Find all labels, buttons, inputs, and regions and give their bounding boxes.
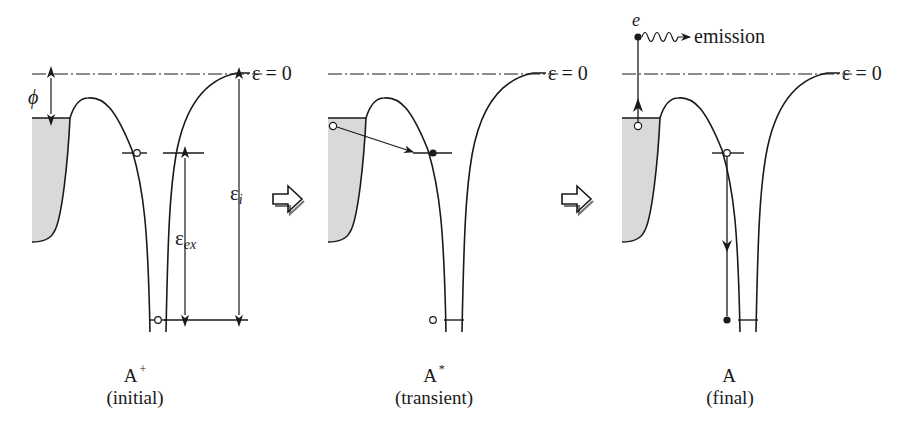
panel-transient: ε = 0 bbox=[328, 62, 588, 332]
electron-excited-level bbox=[429, 149, 436, 156]
zero-level-label: ε = 0 bbox=[842, 62, 882, 84]
emission-label: emission bbox=[694, 25, 765, 47]
state-caption: (transient) bbox=[354, 387, 514, 409]
panel-initial: ϕ εex εi ε = 0 bbox=[28, 62, 292, 332]
work-function-label: ϕ bbox=[28, 86, 38, 109]
hole-excited-level bbox=[134, 150, 141, 157]
state-label: A+ bbox=[55, 358, 215, 387]
panel-final: e emission ε = 0 bbox=[622, 10, 882, 332]
caption-final: A (final) bbox=[650, 358, 810, 409]
state-label: A* bbox=[354, 358, 514, 387]
state-caption: (final) bbox=[650, 387, 810, 409]
excitation-energy-label: εex bbox=[175, 226, 197, 252]
state-caption: (initial) bbox=[55, 387, 215, 409]
hole-metal bbox=[634, 122, 641, 129]
electron-ground-level bbox=[723, 316, 730, 323]
photon-wave-icon bbox=[642, 33, 690, 42]
right-arrow-icon bbox=[562, 186, 593, 214]
hole-excited-level bbox=[724, 150, 731, 157]
zero-level-label: ε = 0 bbox=[252, 62, 292, 84]
hole-metal bbox=[329, 122, 336, 129]
state-label: A bbox=[650, 358, 810, 387]
electron-label: e bbox=[632, 10, 640, 30]
right-arrow-icon bbox=[273, 186, 304, 214]
caption-transient: A* (transient) bbox=[354, 358, 514, 409]
ionization-energy-label: εi bbox=[230, 181, 243, 207]
hole-ground-level bbox=[155, 317, 162, 324]
hole-ground-level bbox=[430, 317, 437, 324]
caption-initial: A+ (initial) bbox=[55, 358, 215, 409]
emitted-electron bbox=[634, 33, 641, 40]
zero-level-label: ε = 0 bbox=[548, 62, 588, 84]
